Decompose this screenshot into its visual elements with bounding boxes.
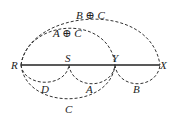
arc-diagram: R S Y X B ⊕ C A ⊕ C D A B C bbox=[0, 0, 182, 116]
arc-label-a-plus-c: A ⊕ C bbox=[52, 27, 82, 39]
arc-label-b: B bbox=[133, 83, 140, 95]
arc-a bbox=[69, 65, 115, 84]
arc-label-d: D bbox=[40, 83, 49, 95]
point-label-x: X bbox=[159, 59, 168, 71]
arc-b bbox=[115, 65, 160, 84]
arc-label-a: A bbox=[85, 83, 93, 95]
arc-b-plus-c bbox=[21, 19, 160, 65]
arc-label-b-plus-c: B ⊕ C bbox=[76, 9, 105, 21]
point-label-r: R bbox=[10, 59, 18, 71]
point-label-s: S bbox=[65, 52, 71, 64]
arc-d bbox=[21, 65, 69, 82]
point-label-y: Y bbox=[112, 52, 120, 64]
arc-label-c: C bbox=[65, 103, 73, 115]
